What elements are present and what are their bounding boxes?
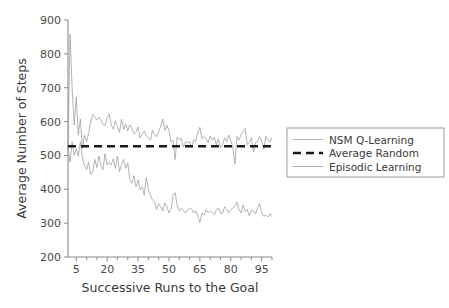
legend-label-average-random: Average Random xyxy=(329,147,419,159)
x-tick-label: 50 xyxy=(162,263,176,276)
y-tick-label: 800 xyxy=(40,48,61,61)
x-tick-label: 65 xyxy=(193,263,207,276)
y-tick-label: 700 xyxy=(40,82,61,95)
y-tick-label: 600 xyxy=(40,116,61,129)
x-axis-title: Successive Runs to the Goal xyxy=(82,280,259,295)
x-tick-label: 5 xyxy=(73,263,80,276)
x-tick-label: 95 xyxy=(255,263,269,276)
y-tick-label: 200 xyxy=(40,251,61,264)
x-tick-label: 35 xyxy=(131,263,145,276)
x-tick-label: 80 xyxy=(224,263,238,276)
legend-label-episodic-learning: Episodic Learning xyxy=(329,161,421,173)
y-tick-label: 900 xyxy=(40,14,61,27)
chart-svg: 2003004005006007008009005203550658095Suc… xyxy=(0,0,449,308)
series-line-episodic-learning xyxy=(68,142,272,223)
x-tick-label: 20 xyxy=(100,263,114,276)
legend-label-nsm-q-learning: NSM Q-Learning xyxy=(329,134,414,146)
y-tick-label: 300 xyxy=(40,217,61,230)
y-tick-label: 400 xyxy=(40,183,61,196)
y-tick-label: 500 xyxy=(40,149,61,162)
chart-figure: 2003004005006007008009005203550658095Suc… xyxy=(0,0,449,308)
y-axis-title: Average Number of Steps xyxy=(14,58,29,219)
series-line-nsm-q-learning xyxy=(68,34,272,164)
